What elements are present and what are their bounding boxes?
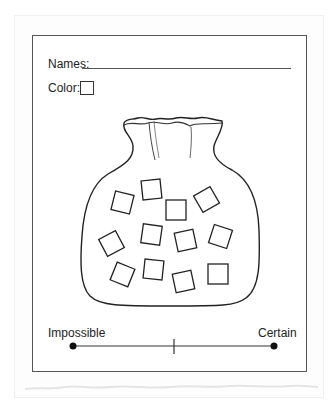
bag-illustration [0,0,336,408]
certain-label: Certain [258,327,297,339]
bag-crease-1 [149,122,155,160]
certain-dot [271,343,278,350]
square-4 [194,187,220,213]
torn-edge [20,383,320,393]
square-5 [99,231,125,257]
square-9 [110,262,135,287]
impossible-label: Impossible [48,327,105,339]
square-8 [209,225,233,249]
impossible-dot [70,343,77,350]
square-2 [141,179,162,200]
square-7 [174,229,197,252]
square-10 [143,259,164,280]
square-12 [208,264,228,284]
bag-outline [81,117,259,306]
square-6 [141,224,162,245]
bag-crease-2 [154,121,159,158]
bag-rim [124,122,222,126]
bag-crease-3 [190,127,191,158]
square-1 [111,191,134,214]
square-11 [172,270,195,293]
square-3 [166,200,186,220]
squares-group [99,179,233,293]
